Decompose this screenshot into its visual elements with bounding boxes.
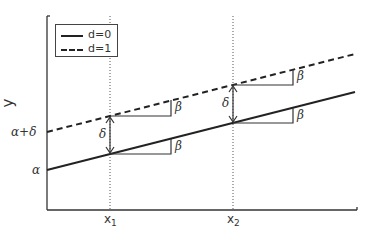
legend-label: d=0 (88, 28, 111, 41)
legend-item-d0: d=0 (56, 28, 117, 42)
beta-label-d0-x2: β (297, 109, 304, 121)
legend-label: d=1 (88, 42, 111, 55)
delta-label-x1: δ (99, 128, 106, 140)
beta-label-d1-x1: β (175, 101, 182, 113)
y-tick-alpha: α (32, 164, 40, 176)
delta-label-x2: δ (222, 97, 229, 109)
y-axis-label: y (0, 99, 17, 108)
legend-item-d1: d=1 (56, 42, 117, 56)
slope-triangles (110, 70, 293, 154)
legend: d=0 d=1 (55, 24, 118, 57)
line-d0-solid (47, 92, 355, 170)
line-d1-dashed (47, 54, 355, 132)
legend-dashed-swatch (61, 49, 83, 51)
beta-label-d0-x1: β (175, 140, 182, 152)
legend-solid-swatch (61, 35, 83, 37)
y-tick-alpha-plus-delta: α+δ (11, 126, 36, 138)
x-tick-x2-sub: 2 (234, 218, 240, 228)
x-tick-x1-sub: 1 (111, 218, 117, 228)
x-tick-x2: x2 (227, 213, 240, 225)
beta-label-d1-x2: β (297, 70, 304, 82)
x-tick-x1: x1 (104, 213, 117, 225)
